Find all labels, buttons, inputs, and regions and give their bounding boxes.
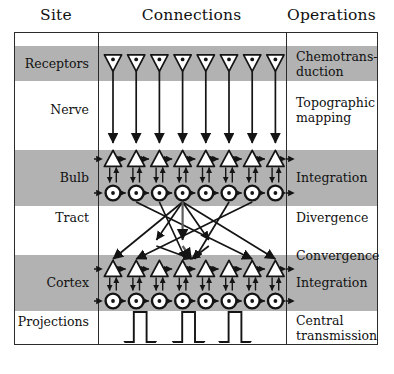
receptor-dot-7 — [250, 58, 254, 62]
cortex-circle-dot-4 — [181, 299, 185, 303]
bulb-triangle-3 — [151, 150, 168, 166]
receptor-dot-5 — [204, 58, 208, 62]
receptor-dot-4 — [181, 58, 185, 62]
receptor-triangle-4 — [174, 55, 191, 72]
connections-graphic — [15, 33, 377, 344]
receptor-triangle-5 — [197, 55, 214, 72]
receptor-triangle-8 — [267, 55, 284, 72]
projection-arrow-3 — [220, 312, 250, 343]
column-header-site: Site — [14, 6, 98, 24]
receptor-triangle-7 — [244, 55, 261, 72]
tract-convergent-outer-right — [195, 202, 229, 259]
bulb-circle-dot-2 — [134, 191, 138, 195]
cortex-circle-dot-5 — [204, 299, 208, 303]
receptor-dot-3 — [158, 58, 162, 62]
receptor-triangle-1 — [104, 55, 121, 72]
cortex-circle-dot-3 — [158, 299, 162, 303]
bulb-triangle-6 — [220, 150, 237, 166]
receptor-dot-1 — [111, 58, 115, 62]
bulb-circle-dot-8 — [274, 191, 278, 195]
tract-divergent-right-long — [183, 202, 276, 259]
bulb-triangle-2 — [128, 150, 145, 166]
cortex-triangle-6 — [220, 260, 237, 276]
cortex-circle-dot-1 — [111, 299, 115, 303]
column-header-operations: Operations — [285, 6, 378, 24]
cortex-circle-dot-2 — [134, 299, 138, 303]
bulb-circle-dot-5 — [204, 191, 208, 195]
bulb-triangle-8 — [267, 150, 284, 166]
bulb-triangle-4 — [174, 150, 191, 166]
projection-arrow-2 — [174, 312, 204, 343]
bulb-circle-dot-4 — [181, 191, 185, 195]
cortex-triangle-1 — [104, 260, 121, 276]
bulb-circle-dot-6 — [227, 191, 231, 195]
receptor-dot-6 — [227, 58, 231, 62]
connections-svg — [15, 33, 379, 343]
bulb-circle-dot-3 — [158, 191, 162, 195]
cortex-circle-dot-7 — [250, 299, 254, 303]
cortex-triangle-8 — [267, 260, 284, 276]
diagram-frame: Receptors Nerve Bulb Tract Cortex Projec… — [14, 32, 378, 345]
cortex-circle-dot-6 — [227, 299, 231, 303]
receptor-dot-2 — [134, 58, 138, 62]
cortex-triangle-4 — [174, 260, 191, 276]
receptor-triangle-6 — [220, 55, 237, 72]
receptor-triangle-3 — [151, 55, 168, 72]
bulb-triangle-7 — [244, 150, 261, 166]
cortex-triangle-7 — [244, 260, 261, 276]
diagram-root: Site Connections Operations Receptors Ne… — [0, 0, 394, 374]
column-header-connections: Connections — [98, 6, 285, 24]
bulb-triangle-5 — [197, 150, 214, 166]
cortex-triangle-3 — [151, 260, 168, 276]
tract-convergent-from-right — [192, 246, 209, 259]
cortex-triangle-2 — [128, 260, 145, 276]
bulb-triangle-1 — [104, 150, 121, 166]
projection-arrow-1 — [125, 312, 155, 343]
receptor-dot-8 — [274, 58, 278, 62]
bulb-circle-dot-1 — [111, 191, 115, 195]
cortex-circle-dot-8 — [274, 299, 278, 303]
cortex-triangle-5 — [197, 260, 214, 276]
receptor-triangle-2 — [128, 55, 145, 72]
bulb-circle-dot-7 — [250, 191, 254, 195]
